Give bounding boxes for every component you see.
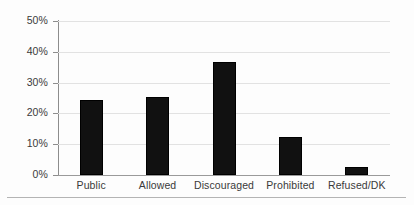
bar <box>80 100 103 175</box>
plot-area <box>58 21 390 175</box>
y-axis-tick <box>53 52 58 53</box>
y-axis-tick <box>53 113 58 114</box>
y-axis-tick <box>53 21 58 22</box>
y-axis-tick <box>53 144 58 145</box>
y-axis-label: 30% <box>0 76 48 88</box>
gridline <box>58 21 390 22</box>
bar <box>213 62 236 175</box>
gridline <box>58 52 390 53</box>
y-axis-tick <box>53 83 58 84</box>
y-axis-label: 50% <box>0 14 48 26</box>
x-axis-baseline <box>58 175 390 176</box>
bar <box>345 167 368 175</box>
y-axis-label: 40% <box>0 45 48 57</box>
y-axis-label: 20% <box>0 106 48 118</box>
bar <box>146 97 169 175</box>
x-axis-label: Refused/DK <box>297 179 414 191</box>
y-axis-tick <box>53 175 58 176</box>
y-axis-label: 10% <box>0 137 48 149</box>
bottom-divider <box>7 197 406 198</box>
bar-chart-figure: 0%10%20%30%40%50%PublicAllowedDiscourage… <box>0 0 414 205</box>
bar <box>279 137 302 176</box>
